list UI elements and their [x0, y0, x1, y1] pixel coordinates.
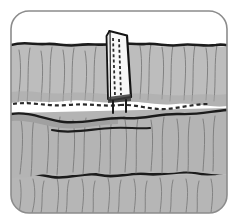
illustration-content — [11, 31, 227, 213]
sewn-flap — [107, 31, 132, 103]
fabric-seam-illustration — [0, 0, 238, 224]
illustration-container: Grayscale line drawing of gathered fabri… — [0, 0, 238, 224]
flap-left-fold — [107, 31, 111, 101]
